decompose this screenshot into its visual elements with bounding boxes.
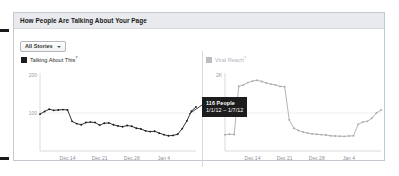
panel-body: All Stories Talking About This? Viral Re…	[14, 29, 384, 160]
panel-header: How People Are Talking About Your Page	[14, 13, 384, 29]
tooltip-date-range: 1/1/12 – 1/7/12	[206, 107, 243, 114]
legend-label: Viral Reach?	[215, 58, 246, 64]
legend-label: Talking About This?	[30, 58, 78, 64]
legend-talking-about-this[interactable]: Talking About This?	[21, 57, 78, 63]
svg-text:Dec 28: Dec 28	[124, 155, 140, 161]
charts-container: 200100Dec 14Dec 21Dec 28Jan 4 2K1KDec 14…	[20, 69, 378, 169]
crop-mark-bottom	[0, 157, 9, 160]
insights-panel: How People Are Talking About Your Page A…	[13, 12, 385, 161]
page-title: How People Are Talking About Your Page	[20, 17, 147, 24]
svg-text:Dec 14: Dec 14	[60, 155, 76, 161]
svg-text:200: 200	[29, 72, 38, 78]
tooltip-leader-line	[188, 103, 203, 115]
tooltip-value: 116 People	[206, 100, 243, 107]
legend-row: Talking About This? Viral Reach?	[20, 56, 378, 68]
legend-swatch-icon	[206, 57, 212, 63]
chevron-down-icon	[57, 46, 61, 48]
svg-text:Dec 21: Dec 21	[277, 155, 293, 161]
chart-svg-talking-about-this: 200100Dec 14Dec 21Dec 28Jan 4	[20, 69, 200, 169]
help-icon[interactable]: ?	[75, 55, 77, 60]
chart-talking-about-this[interactable]: 200100Dec 14Dec 21Dec 28Jan 4	[20, 69, 200, 169]
svg-text:Jan 4: Jan 4	[343, 155, 355, 161]
help-icon[interactable]: ?	[244, 55, 246, 60]
svg-text:Dec 21: Dec 21	[92, 155, 108, 161]
story-filter-label: All Stories	[25, 44, 53, 50]
svg-text:Dec 14: Dec 14	[245, 155, 261, 161]
legend-swatch-icon	[21, 57, 27, 63]
data-point-tooltip: 116 People 1/1/12 – 1/7/12	[202, 97, 247, 117]
svg-text:2K: 2K	[216, 72, 223, 78]
crop-mark-top	[0, 29, 9, 32]
legend-viral-reach[interactable]: Viral Reach?	[206, 57, 246, 63]
svg-text:100: 100	[29, 110, 38, 116]
chart-svg-viral-reach: 2K1KDec 14Dec 21Dec 28Jan 4	[205, 69, 385, 169]
chart-viral-reach[interactable]: 2K1KDec 14Dec 21Dec 28Jan 4	[205, 69, 385, 169]
svg-text:Dec 28: Dec 28	[309, 155, 325, 161]
svg-text:Jan 4: Jan 4	[158, 155, 170, 161]
story-filter-dropdown[interactable]: All Stories	[20, 41, 66, 52]
